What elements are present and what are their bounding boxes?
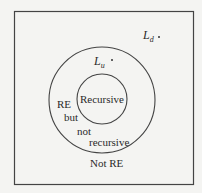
lu-sub: u: [101, 61, 105, 70]
lu-point: [111, 59, 113, 61]
lu-main: L: [94, 54, 101, 68]
but-label: but: [64, 112, 78, 123]
ld-label: Ld: [143, 30, 154, 45]
lu-label: Lu: [94, 56, 105, 71]
re-label: RE: [57, 99, 71, 110]
ld-point: [158, 36, 160, 38]
ld-main: L: [143, 28, 150, 42]
not-re-label: Not RE: [90, 158, 123, 169]
ld-sub: d: [150, 35, 154, 44]
recursive-label: Recursive: [80, 94, 124, 105]
recursive-ring-label: recursive: [89, 137, 129, 148]
